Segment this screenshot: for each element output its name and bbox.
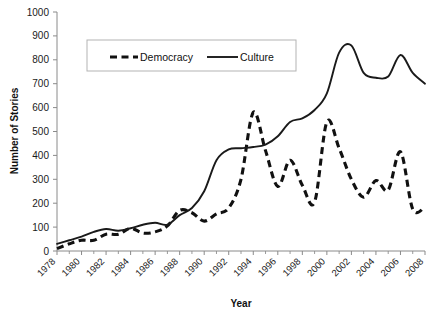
x-axis-title: Year (230, 298, 251, 309)
y-tick-label: 400 (32, 150, 49, 161)
chart-container: 10009008007006005004003002001000 1978198… (0, 0, 443, 315)
legend: Democracy Culture (87, 40, 296, 71)
y-tick-label: 100 (32, 222, 49, 233)
y-tick-label: 300 (32, 174, 49, 185)
y-tick-label: 900 (32, 30, 49, 41)
y-tick-label: 600 (32, 102, 49, 113)
y-tick-label: 700 (32, 78, 49, 89)
y-tick-label: 0 (43, 246, 49, 257)
legend-label-democracy: Democracy (140, 51, 194, 63)
legend-label-culture: Culture (240, 51, 274, 63)
y-axis-title: Number of Stories (9, 87, 20, 174)
y-tick-label: 500 (32, 126, 49, 137)
y-tick-label: 1000 (27, 7, 50, 18)
y-tick-label: 200 (32, 198, 49, 209)
y-tick-label: 800 (32, 54, 49, 65)
line-chart: 10009008007006005004003002001000 1978198… (0, 0, 443, 315)
